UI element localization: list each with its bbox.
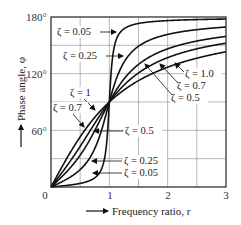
y-tick-60: 60°: [32, 125, 47, 137]
annotation-zeta-10-high: ζ = 1.0: [185, 68, 214, 80]
x-tick-3: 3: [223, 189, 229, 201]
annotation-zeta-05-low: ζ = 0.5: [125, 125, 154, 137]
x-tick-2: 2: [165, 189, 171, 201]
annotation-zeta-1-low: ζ = 1: [70, 87, 91, 99]
x-axis-label-text: Frequency ratio, r: [112, 205, 191, 217]
annotation-zeta-07-low: ζ = 0.7: [53, 102, 82, 114]
y-tick-180: 180°: [26, 11, 47, 23]
x-axis-label: Frequency ratio, r: [86, 205, 191, 217]
x-tick-1: 1: [107, 189, 113, 201]
x-tick-0: 0: [42, 189, 48, 201]
y-axis-label-text: Phase angle, φ: [15, 57, 27, 121]
annotation-zeta-025-low: ζ = 0.25: [124, 155, 158, 167]
phase-angle-chart: 180° 120° 60° 0 1 2 3 Frequency ratio, r…: [0, 0, 241, 225]
annotation-zeta-025-high: ζ = 0.25: [63, 50, 97, 62]
annotation-zeta-005-high: ζ = 0.05: [57, 26, 91, 38]
annotation-zeta-07-high: ζ = 0.7: [177, 80, 206, 92]
annotation-zeta-05-high: ζ = 0.5: [171, 92, 200, 104]
annotation-zeta-005-low: ζ = 0.05: [124, 167, 158, 179]
y-tick-120: 120°: [26, 68, 47, 80]
y-axis-label: Phase angle, φ: [15, 57, 27, 147]
